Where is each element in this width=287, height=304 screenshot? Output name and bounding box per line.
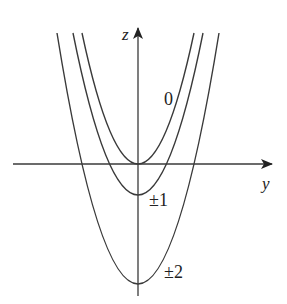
curve-label-2: ±2: [164, 262, 183, 282]
z-axis-label: z: [121, 25, 129, 44]
curve-label-0: 0: [164, 89, 173, 109]
y-axis-label: y: [260, 174, 270, 193]
curve-label-1: ±1: [149, 190, 168, 210]
parabola-diagram: z y 0 ±1 ±2: [0, 0, 287, 304]
